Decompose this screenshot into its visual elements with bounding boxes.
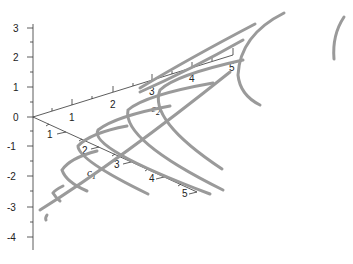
curve-5 bbox=[128, 83, 223, 190]
c2-tick-label: 2 bbox=[110, 99, 116, 110]
c1-tick-label: 5 bbox=[182, 188, 188, 199]
curve-far-right bbox=[334, 17, 344, 59]
c2-tick-label: 1 bbox=[69, 112, 75, 123]
curves bbox=[40, 13, 344, 220]
curve-0 bbox=[46, 215, 47, 220]
curve-7 bbox=[238, 13, 284, 105]
c1-tick-label: 4 bbox=[149, 173, 155, 184]
vertical-tick-label: 3 bbox=[13, 23, 19, 34]
vertical-tick-label: -2 bbox=[7, 171, 16, 182]
vertical-tick-label: -1 bbox=[7, 141, 16, 152]
vertical-tick-label: -3 bbox=[7, 202, 16, 213]
vertical-tick-label: 1 bbox=[13, 82, 19, 93]
c1-tick-label: 1 bbox=[47, 129, 53, 140]
vertical-tick-label: 0 bbox=[13, 112, 19, 123]
3d-plot: 3 2 1 0 -1 -2 -3 -4 1 2 3 4 5 c2 bbox=[0, 0, 353, 264]
vertical-tick-label: 2 bbox=[13, 52, 19, 63]
vertical-axis: 3 2 1 0 -1 -2 -3 -4 bbox=[7, 23, 33, 250]
curve-line-b bbox=[140, 40, 243, 92]
vertical-tick-label: -4 bbox=[7, 232, 16, 243]
